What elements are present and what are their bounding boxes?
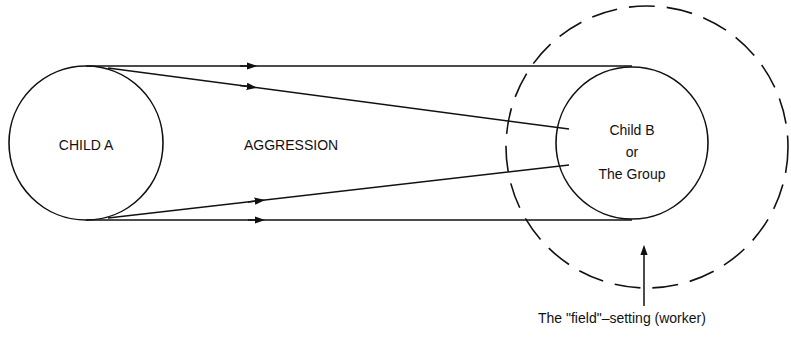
aggression-line-lower-diagonal bbox=[108, 165, 569, 218]
arrowhead-lower-diagonal bbox=[248, 201, 260, 202]
aggression-label: AGGRESSION bbox=[244, 137, 338, 153]
child-b-label-line1: Child B bbox=[572, 119, 692, 141]
arrowhead-upper-diagonal bbox=[240, 86, 252, 88]
child-b-label-line3: The Group bbox=[572, 163, 692, 185]
field-setting-label: The "field"–setting (worker) bbox=[538, 310, 706, 326]
child-a-label: CHILD A bbox=[26, 137, 146, 153]
aggression-line-upper-diagonal bbox=[108, 68, 569, 129]
child-b-label-line2: or bbox=[572, 141, 692, 163]
child-b-label: Child B or The Group bbox=[572, 119, 692, 185]
